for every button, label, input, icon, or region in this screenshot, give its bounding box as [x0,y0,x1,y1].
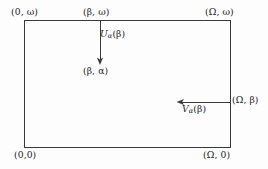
label-interior-point: (β, α) [83,66,108,75]
domain-rectangle [24,20,231,148]
u-label-argument: (β) [112,28,125,39]
figure-canvas: (0, ω) (β, ω) (Ω, ω) (0,0) (Ω, 0) (β, α)… [0,0,268,169]
label-bottom-left-vertex: (0,0) [14,150,36,159]
u-label-base: U [100,28,108,39]
label-bottom-right-vertex: (Ω, 0) [203,150,230,159]
label-top-right-vertex: (Ω, ω) [205,7,234,16]
label-top-middle-vertex: (β, ω) [83,7,109,16]
label-u-arrow: Uα(β) [100,29,125,40]
v-label-base: V [182,103,189,114]
label-right-edge-point: (Ω, β) [232,95,259,104]
label-v-arrow: Vα(β) [182,104,206,115]
v-label-argument: (β) [193,103,206,114]
label-top-left-vertex: (0, ω) [11,7,38,16]
